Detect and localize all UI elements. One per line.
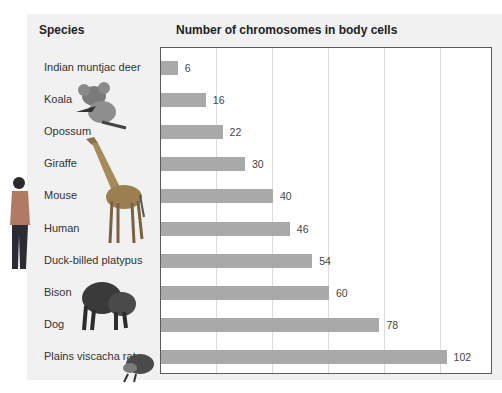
chart-title: Number of chromosomes in body cells: [176, 23, 397, 37]
gridline: [384, 48, 385, 373]
species-header: Species: [39, 23, 84, 37]
bar: [161, 189, 273, 203]
species-label: Bison: [44, 285, 72, 299]
species-label: Duck-billed platypus: [44, 253, 142, 267]
species-label: Indian muntjac deer: [44, 60, 141, 74]
bar-value-label: 40: [280, 189, 292, 203]
bison-image: [76, 276, 140, 332]
human-image: [6, 175, 34, 275]
bar-value-label: 22: [230, 125, 242, 139]
bar-value-label: 54: [319, 254, 331, 268]
viscacha-rat-image: [120, 348, 156, 384]
koala-image: [72, 82, 128, 130]
bar-value-label: 60: [336, 286, 348, 300]
species-label: Dog: [44, 317, 64, 331]
bar-value-label: 16: [213, 93, 225, 107]
bar-value-label: 30: [252, 157, 264, 171]
species-label: Mouse: [44, 188, 77, 202]
species-label: Giraffe: [44, 156, 77, 170]
bar: [161, 93, 206, 107]
bar-value-label: 46: [297, 222, 309, 236]
bar: [161, 61, 178, 75]
bar: [161, 157, 245, 171]
bar: [161, 350, 447, 364]
bar-value-label: 102: [454, 350, 472, 364]
plot-area: 61622304046546078102: [160, 47, 492, 374]
bar-value-label: 78: [386, 318, 398, 332]
species-label: Human: [44, 221, 79, 235]
bar: [161, 125, 223, 139]
giraffe-image: [78, 135, 148, 247]
bar: [161, 318, 379, 332]
gridline: [440, 48, 441, 373]
bar: [161, 286, 329, 300]
bar: [161, 222, 290, 236]
bar: [161, 254, 312, 268]
species-label: Koala: [44, 92, 72, 106]
bar-value-label: 6: [185, 61, 191, 75]
